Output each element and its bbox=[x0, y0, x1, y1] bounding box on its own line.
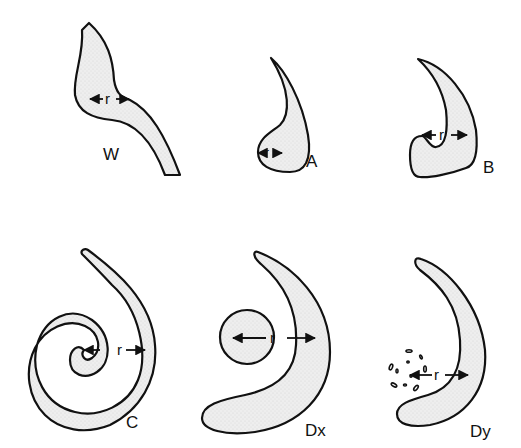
panel-label-w: W bbox=[103, 145, 119, 164]
dispersed-companion-dy bbox=[389, 350, 427, 392]
panel-w: r W bbox=[75, 23, 180, 175]
companion-circle-dx bbox=[220, 310, 274, 364]
panel-label-b: B bbox=[483, 158, 494, 177]
panel-c: r C bbox=[29, 249, 155, 432]
radius-label-dy: r bbox=[434, 366, 439, 383]
panel-label-dx: Dx bbox=[305, 421, 326, 440]
panel-label-dy: Dy bbox=[470, 422, 491, 441]
shape-c bbox=[29, 249, 155, 430]
shape-dy bbox=[397, 258, 485, 426]
panel-label-a: A bbox=[306, 152, 318, 171]
radius-label-c: r bbox=[117, 341, 122, 358]
shape-b bbox=[410, 59, 477, 177]
panel-dx: r Dx bbox=[202, 252, 330, 440]
panel-b: r B bbox=[410, 59, 494, 177]
galaxy-shape-diagram: r W r A r B r C r Dx bbox=[0, 0, 521, 448]
panel-label-c: C bbox=[126, 413, 138, 432]
radius-label-b: r bbox=[439, 126, 444, 143]
radius-label-w: r bbox=[105, 90, 110, 107]
radius-label-a: r bbox=[265, 146, 269, 160]
radius-label-dx: r bbox=[270, 329, 275, 346]
panel-a: r A bbox=[258, 58, 318, 172]
panel-dy: r Dy bbox=[389, 258, 492, 441]
